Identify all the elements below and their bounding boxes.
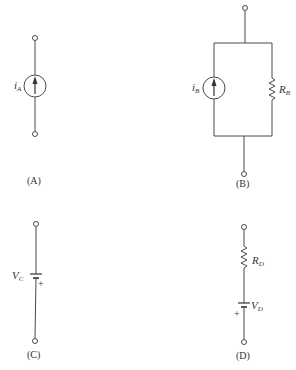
- label-v-c: VC: [12, 270, 23, 283]
- label-r-b: RB: [279, 84, 290, 97]
- terminal-c-bottom: [33, 339, 38, 344]
- terminal-a-bottom: [33, 132, 38, 137]
- caption-c: (C): [27, 350, 40, 360]
- resistor-d-icon: [241, 246, 247, 268]
- label-r-d: RD: [252, 255, 264, 268]
- circuit-d: [238, 225, 250, 345]
- terminal-d-bottom: [242, 340, 247, 345]
- circuit-a: [24, 36, 46, 137]
- plus-sign-d: +: [234, 309, 240, 319]
- resistor-b-icon: [269, 78, 275, 100]
- plus-sign-c: +: [38, 279, 44, 289]
- arrow-up-icon: [33, 76, 38, 84]
- arrow-up-icon: [212, 78, 217, 86]
- terminal-d-top: [242, 225, 247, 230]
- terminal-a-top: [33, 36, 38, 41]
- caption-b: (B): [236, 179, 249, 189]
- caption-d: (D): [236, 351, 250, 361]
- label-v-d: VD: [251, 300, 263, 313]
- label-i-b: iB: [192, 82, 199, 95]
- circuit-b: [203, 6, 275, 177]
- circuit-diagrams: [0, 0, 296, 370]
- terminal-c-top: [34, 222, 39, 227]
- label-i-a: iA: [14, 80, 21, 93]
- caption-a: (A): [27, 176, 41, 186]
- terminal-b-bottom: [242, 172, 247, 177]
- terminal-b-top: [243, 6, 248, 11]
